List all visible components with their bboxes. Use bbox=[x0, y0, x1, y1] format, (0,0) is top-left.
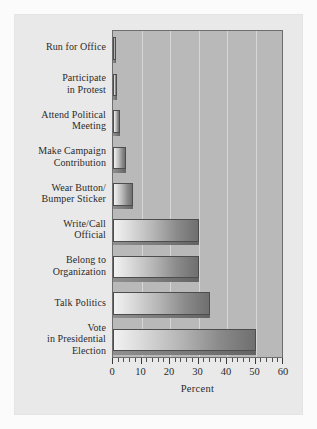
y-label-line: Attend Political bbox=[2, 109, 106, 121]
tick-major-20 bbox=[169, 358, 170, 364]
y-label-line: Bumper Sticker bbox=[2, 193, 106, 205]
tick-minor-2 bbox=[118, 358, 119, 362]
tick-minor-44 bbox=[237, 358, 238, 362]
y-label-line: Belong to bbox=[2, 254, 106, 266]
tick-minor-36 bbox=[215, 358, 216, 362]
x-tick-label-40: 40 bbox=[213, 366, 239, 377]
tick-minor-52 bbox=[260, 358, 261, 362]
y-label-line: Official bbox=[2, 229, 106, 241]
tick-major-0 bbox=[112, 358, 113, 364]
bar-campaign-contribution bbox=[113, 147, 126, 170]
tick-minor-12 bbox=[146, 358, 147, 362]
y-label-campaign-contribution: Make CampaignContribution bbox=[2, 145, 106, 168]
bar-run-for-office bbox=[113, 37, 116, 60]
y-label-line: Election bbox=[2, 345, 106, 357]
bar-vote-presidential bbox=[113, 329, 256, 352]
x-axis-title: Percent bbox=[112, 383, 283, 394]
tick-major-10 bbox=[141, 358, 142, 364]
bar-attend-meeting bbox=[113, 110, 120, 133]
y-label-line: Make Campaign bbox=[2, 145, 106, 157]
bar-shadow-campaign-contribution bbox=[113, 169, 126, 173]
figure: Run for OfficeParticipatein ProtestAtten… bbox=[0, 0, 317, 429]
bar-write-call-official bbox=[113, 219, 199, 242]
y-label-line: Contribution bbox=[2, 157, 106, 169]
x-tick-label-10: 10 bbox=[128, 366, 154, 377]
x-tick-label-30: 30 bbox=[185, 366, 211, 377]
bar-talk-politics bbox=[113, 292, 210, 315]
x-axis-ticks bbox=[112, 358, 283, 364]
tick-minor-16 bbox=[158, 358, 159, 362]
y-label-line: Meeting bbox=[2, 120, 106, 132]
tick-minor-32 bbox=[203, 358, 204, 362]
y-label-line: Run for Office bbox=[2, 41, 106, 53]
y-label-line: Wear Button/ bbox=[2, 182, 106, 194]
y-label-line: Vote bbox=[2, 322, 106, 334]
tick-major-40 bbox=[226, 358, 227, 364]
y-label-wear-button: Wear Button/Bumper Sticker bbox=[2, 182, 106, 205]
tick-minor-28 bbox=[192, 358, 193, 362]
tick-minor-6 bbox=[129, 358, 130, 362]
tick-minor-38 bbox=[220, 358, 221, 362]
y-label-line: Talk Politics bbox=[2, 297, 106, 309]
tick-minor-58 bbox=[277, 358, 278, 362]
y-label-run-for-office: Run for Office bbox=[2, 41, 106, 53]
tick-minor-24 bbox=[180, 358, 181, 362]
y-label-vote-presidential: Votein PresidentialElection bbox=[2, 322, 106, 357]
bar-shadow-run-for-office bbox=[113, 60, 116, 64]
tick-minor-4 bbox=[123, 358, 124, 362]
y-label-line: in Protest bbox=[2, 84, 106, 96]
y-label-talk-politics: Talk Politics bbox=[2, 297, 106, 309]
y-label-attend-meeting: Attend PoliticalMeeting bbox=[2, 109, 106, 132]
y-label-participate-protest: Participatein Protest bbox=[2, 72, 106, 95]
tick-minor-42 bbox=[232, 358, 233, 362]
y-label-line: Participate bbox=[2, 72, 106, 84]
bar-participate-protest bbox=[113, 74, 117, 97]
tick-minor-48 bbox=[249, 358, 250, 362]
tick-major-50 bbox=[255, 358, 256, 364]
tick-minor-56 bbox=[272, 358, 273, 362]
plot-area bbox=[112, 30, 283, 358]
tick-major-60 bbox=[282, 358, 283, 364]
bar-shadow-attend-meeting bbox=[113, 133, 120, 137]
tick-major-30 bbox=[198, 358, 199, 364]
tick-minor-46 bbox=[243, 358, 244, 362]
bar-shadow-belong-organization bbox=[113, 278, 199, 282]
y-label-line: Organization bbox=[2, 266, 106, 278]
gridline-50 bbox=[256, 31, 257, 357]
tick-minor-54 bbox=[266, 358, 267, 362]
tick-minor-26 bbox=[186, 358, 187, 362]
bar-shadow-write-call-official bbox=[113, 242, 199, 246]
gridline-40 bbox=[227, 31, 228, 357]
x-tick-label-20: 20 bbox=[156, 366, 182, 377]
bar-shadow-talk-politics bbox=[113, 315, 210, 319]
tick-minor-22 bbox=[175, 358, 176, 362]
y-label-belong-organization: Belong toOrganization bbox=[2, 254, 106, 277]
bar-shadow-vote-presidential bbox=[113, 351, 256, 355]
bar-shadow-wear-button bbox=[113, 206, 133, 210]
y-label-write-call-official: Write/CallOfficial bbox=[2, 218, 106, 241]
x-tick-label-50: 50 bbox=[242, 366, 268, 377]
tick-minor-18 bbox=[163, 358, 164, 362]
bar-shadow-participate-protest bbox=[113, 96, 117, 100]
bar-belong-organization bbox=[113, 256, 199, 279]
y-label-line: Write/Call bbox=[2, 218, 106, 230]
y-axis-labels: Run for OfficeParticipatein ProtestAtten… bbox=[0, 0, 106, 429]
bar-wear-button bbox=[113, 183, 133, 206]
tick-minor-8 bbox=[135, 358, 136, 362]
tick-minor-14 bbox=[152, 358, 153, 362]
x-tick-label-60: 60 bbox=[270, 366, 296, 377]
x-tick-label-0: 0 bbox=[99, 366, 125, 377]
y-label-line: in Presidential bbox=[2, 333, 106, 345]
tick-minor-34 bbox=[209, 358, 210, 362]
